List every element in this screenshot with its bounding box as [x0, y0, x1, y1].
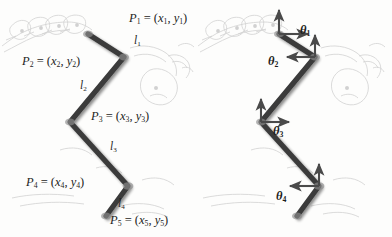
label-point-P1: P1 = (x1, y1): [129, 12, 187, 25]
figure-container: P1 = (x1, y1) P2 = (x2, y2) P3 = (x3, y3…: [0, 0, 392, 237]
joint-P4: [123, 182, 134, 190]
label-point-P3: P3 = (x3, y3): [91, 110, 149, 123]
label-angle-theta2: θ2: [268, 55, 278, 68]
joint-P3: [65, 118, 75, 125]
label-segment-l3: l3: [110, 141, 117, 154]
label-segment-l4: l4: [118, 198, 125, 211]
label-point-P4: P4 = (x4, y4): [26, 176, 84, 189]
figure-canvas: [0, 0, 392, 237]
label-point-P2: P2 = (x2, y2): [22, 55, 80, 68]
label-segment-l1: l1: [134, 35, 141, 48]
label-angle-theta4: θ4: [276, 190, 286, 203]
joint-J5: [292, 212, 302, 219]
joint-P1: [83, 30, 93, 37]
label-angle-theta3: θ3: [273, 125, 283, 138]
label-angle-theta1: θ1: [300, 24, 310, 37]
joint-P2: [119, 53, 129, 60]
label-point-P5: P5 = (x5, y5): [110, 214, 168, 227]
label-segment-l2: l2: [80, 80, 87, 93]
